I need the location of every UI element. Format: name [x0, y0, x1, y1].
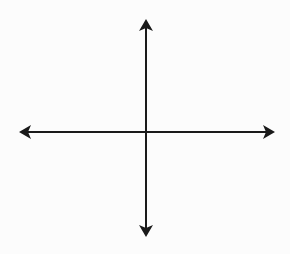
coordinate-plane: Blank Cartesian plane with x and y axes,… [0, 0, 290, 254]
axes-drawing [0, 0, 290, 254]
